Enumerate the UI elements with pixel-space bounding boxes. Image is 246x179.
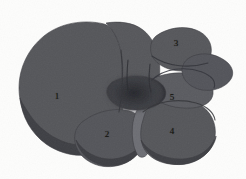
liver-illustration	[0, 0, 246, 179]
paper-grain-overlay	[0, 0, 246, 179]
liver-anatomy-figure: 12345	[0, 0, 246, 179]
